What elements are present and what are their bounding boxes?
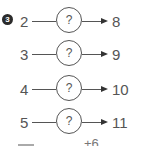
output-value: 9	[112, 46, 120, 63]
output-value: 8	[112, 13, 120, 30]
connector-line	[82, 122, 102, 123]
connector-line	[82, 54, 102, 55]
input-value: 5	[20, 114, 28, 131]
output-value: 10	[112, 81, 129, 98]
arrow-right-icon	[101, 51, 108, 57]
arrow-right-icon	[101, 18, 108, 24]
input-value: 2	[20, 13, 28, 30]
connector-line	[32, 54, 56, 55]
connector-line	[82, 89, 102, 90]
function-machine-row: 3 ? 9	[0, 39, 151, 69]
arrow-right-icon	[101, 119, 108, 125]
answer-hint: +6	[84, 136, 99, 146]
operator-circle: ?	[56, 75, 82, 101]
connector-line	[82, 21, 102, 22]
output-value: 11	[112, 114, 128, 131]
function-machine-row: 4 ? 10	[0, 74, 151, 104]
operator-circle: ?	[56, 108, 82, 134]
connector-line	[32, 21, 56, 22]
operator-circle: ?	[56, 7, 82, 33]
function-machine-row: 5 ? 11	[0, 107, 151, 137]
operator-circle: ?	[56, 40, 82, 66]
function-machine-row: 2 ? 8	[0, 6, 151, 36]
arrow-right-icon	[101, 86, 108, 92]
input-value: 3	[20, 46, 28, 63]
connector-line	[32, 89, 56, 90]
connector-line	[32, 122, 56, 123]
input-value: 4	[20, 81, 28, 98]
partial-text-rule	[18, 144, 34, 146]
